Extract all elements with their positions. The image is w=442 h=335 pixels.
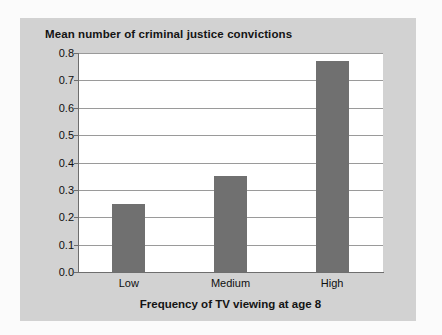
bar-medium bbox=[214, 176, 247, 272]
chart-title: Mean number of criminal justice convicti… bbox=[45, 28, 292, 40]
y-axis-tick-labels: 0.80.70.60.50.40.30.20.10.0 bbox=[26, 53, 74, 272]
x-axis-tick-label: Medium bbox=[211, 277, 250, 289]
y-axis-tick-label: 0.2 bbox=[30, 211, 74, 223]
gridline bbox=[78, 53, 383, 54]
x-axis-tick-label: Low bbox=[119, 277, 139, 289]
y-axis-tick-label: 0.6 bbox=[30, 102, 74, 114]
y-axis-tick-label: 0.7 bbox=[30, 74, 74, 86]
x-axis-line bbox=[78, 272, 384, 273]
y-axis-tick-label: 0.3 bbox=[30, 184, 74, 196]
y-axis-tick-label: 0.4 bbox=[30, 157, 74, 169]
x-axis-tick-label: High bbox=[321, 277, 344, 289]
y-axis-tick-label: 0.1 bbox=[30, 239, 74, 251]
plot-area bbox=[78, 53, 383, 272]
bar-high bbox=[316, 61, 349, 272]
chart-card: Mean number of criminal justice convicti… bbox=[20, 18, 416, 321]
y-axis-line bbox=[78, 53, 79, 273]
y-axis-tick-label: 0.0 bbox=[30, 266, 74, 278]
x-axis-title: Frequency of TV viewing at age 8 bbox=[78, 298, 383, 310]
y-axis-tick-label: 0.5 bbox=[30, 129, 74, 141]
x-axis-tick-labels: LowMediumHigh bbox=[78, 277, 383, 295]
bar-low bbox=[112, 204, 145, 272]
y-axis-tick-label: 0.8 bbox=[30, 47, 74, 59]
